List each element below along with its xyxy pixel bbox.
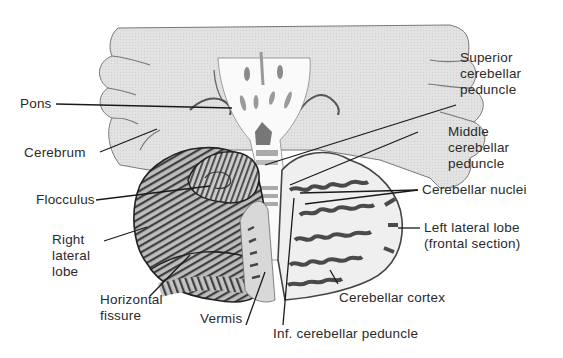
label-horizontal-fissure: Horizontal fissure — [100, 292, 163, 324]
label-superior-cerebellar-peduncle: Superior cerebellar peduncle — [460, 50, 521, 98]
left-lateral-lobe-section-shape — [278, 153, 402, 300]
label-cerebellar-cortex: Cerebellar cortex — [339, 290, 445, 306]
label-cerebrum: Cerebrum — [24, 145, 86, 161]
label-right-lateral-lobe: Right lateral lobe — [52, 232, 90, 280]
label-vermis: Vermis — [200, 311, 242, 327]
label-left-lateral-lobe: Left lateral lobe (frontal section) — [424, 220, 520, 252]
label-flocculus: Flocculus — [36, 192, 95, 208]
label-middle-cerebellar-peduncle: Middle cerebellar peduncle — [448, 124, 509, 172]
cerebellum-diagram: Pons Cerebrum Flocculus Right lateral lo… — [0, 0, 563, 358]
label-inf-cerebellar-peduncle: Inf. cerebellar peduncle — [273, 326, 418, 342]
label-cerebellar-nuclei: Cerebellar nuclei — [422, 182, 527, 198]
label-pons: Pons — [20, 96, 52, 112]
